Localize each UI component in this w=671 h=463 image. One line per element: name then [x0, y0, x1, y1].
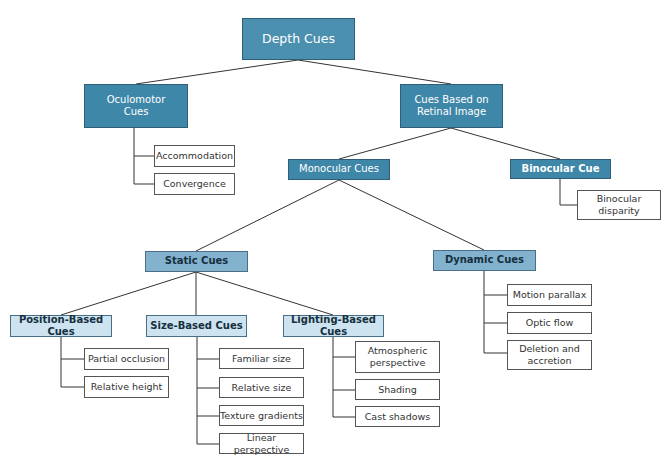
node-lighting-based-cues: Lighting-Based Cues	[283, 315, 384, 337]
leaf-label: Partial occlusion	[88, 353, 165, 365]
leaf-label: Relative size	[232, 382, 292, 394]
node-retinal-image-cues: Cues Based on Retinal Image	[400, 84, 503, 128]
node-label: Depth Cues	[262, 31, 335, 47]
leaf-convergence: Convergence	[154, 173, 235, 195]
leaf-relative-size: Relative size	[219, 377, 304, 398]
leaf-motion-parallax: Motion parallax	[507, 284, 592, 306]
node-monocular-cues: Monocular Cues	[288, 159, 390, 180]
node-binocular-cue: Binocular Cue	[510, 159, 611, 179]
leaf-accommodation: Accommodation	[154, 145, 235, 167]
node-label: Dynamic Cues	[445, 254, 524, 267]
leaf-label: Shading	[378, 384, 417, 396]
node-label: Size-Based Cues	[150, 320, 242, 333]
leaf-label: Motion parallax	[513, 289, 587, 301]
node-label: Lighting-Based Cues	[284, 314, 383, 339]
leaf-label: Convergence	[163, 178, 226, 190]
leaf-label: Texture gradients	[220, 410, 303, 422]
leaf-label: Cast shadows	[365, 411, 431, 423]
leaf-label: Familiar size	[232, 353, 291, 365]
leaf-label: Optic flow	[526, 317, 574, 329]
node-label: Static Cues	[165, 255, 229, 268]
node-static-cues: Static Cues	[145, 251, 248, 272]
node-oculomotor-cues: Oculomotor Cues	[84, 84, 188, 128]
leaf-texture-gradients: Texture gradients	[219, 405, 304, 426]
node-position-based-cues: Position-Based Cues	[10, 315, 112, 337]
node-dynamic-cues: Dynamic Cues	[433, 250, 536, 271]
node-label: Position-Based Cues	[11, 314, 111, 339]
leaf-deletion-accretion: Deletion and accretion	[507, 340, 592, 370]
leaf-label: Atmospheric perspective	[360, 345, 435, 369]
leaf-cast-shadows: Cast shadows	[355, 406, 440, 427]
leaf-familiar-size: Familiar size	[219, 348, 304, 369]
node-label: Oculomotor Cues	[101, 94, 171, 119]
leaf-label: Deletion and accretion	[515, 343, 585, 367]
leaf-label: Binocular disparity	[589, 193, 649, 217]
leaf-linear-perspective: Linear perspective	[219, 433, 304, 454]
leaf-relative-height: Relative height	[84, 376, 169, 398]
leaf-atmospheric-perspective: Atmospheric perspective	[355, 341, 440, 373]
leaf-optic-flow: Optic flow	[507, 312, 592, 334]
leaf-binocular-disparity: Binocular disparity	[577, 190, 661, 220]
node-depth-cues: Depth Cues	[242, 18, 355, 60]
leaf-partial-occlusion: Partial occlusion	[84, 348, 169, 370]
node-label: Binocular Cue	[522, 163, 600, 176]
leaf-label: Relative height	[91, 381, 163, 393]
node-label: Cues Based on Retinal Image	[412, 94, 492, 119]
node-size-based-cues: Size-Based Cues	[146, 315, 247, 337]
leaf-shading: Shading	[355, 379, 440, 400]
leaf-label: Linear perspective	[220, 432, 303, 456]
leaf-label: Accommodation	[156, 150, 233, 162]
node-label: Monocular Cues	[299, 163, 379, 176]
